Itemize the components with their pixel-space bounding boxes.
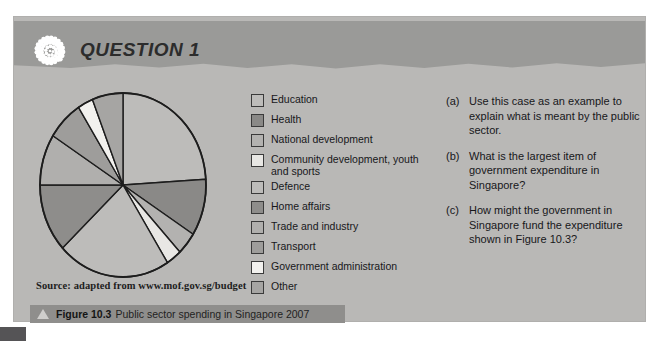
pie-chart-svg	[32, 89, 247, 289]
legend-item: Defence	[251, 180, 436, 197]
legend-swatch	[251, 94, 264, 107]
legend-swatch	[251, 114, 264, 127]
legend-swatch	[251, 281, 264, 294]
legend-swatch	[251, 201, 264, 214]
scanned-page: QUESTION 1 Source: adapted from www.mof.…	[0, 0, 661, 341]
question-item: (a)Use this case as an example to explai…	[446, 94, 641, 138]
legend-item-label: Community development, youth and sports	[271, 153, 436, 177]
legend-swatch	[251, 154, 264, 167]
spiral-dots-icon	[28, 29, 72, 73]
question-marker: (a)	[446, 94, 469, 138]
figure-caption-bar: Figure 10.3 Public sector spending in Si…	[30, 305, 345, 323]
figure-caption-text: Public sector spending in Singapore 2007	[115, 308, 309, 320]
legend-swatch	[251, 134, 264, 147]
legend-item-label: Transport	[271, 240, 316, 253]
legend-item: Community development, youth and sports	[251, 153, 436, 177]
questions-list: (a)Use this case as an example to explai…	[446, 94, 641, 258]
pie-chart	[32, 89, 247, 289]
chart-legend: EducationHealthNational developmentCommu…	[251, 93, 436, 300]
legend-item-label: Other	[271, 280, 297, 293]
legend-item-label: Trade and industry	[271, 220, 358, 233]
legend-item-label: Defence	[271, 180, 310, 193]
legend-item: Other	[251, 280, 436, 297]
legend-item: Education	[251, 93, 436, 110]
triangle-up-icon	[37, 309, 49, 319]
question-item: (c)How might the government in Singapore…	[446, 203, 641, 247]
question-text: Use this case as an example to explain w…	[469, 94, 641, 138]
figure-number: Figure 10.3	[56, 308, 111, 320]
question-item: (b)What is the largest item of governmen…	[446, 149, 641, 193]
question-panel: QUESTION 1 Source: adapted from www.mof.…	[14, 17, 645, 321]
pie-slice	[123, 93, 206, 185]
question-marker: (b)	[446, 149, 469, 193]
legend-swatch	[251, 221, 264, 234]
question-text: What is the largest item of government e…	[469, 149, 641, 193]
question-marker: (c)	[446, 203, 469, 247]
legend-item: Government administration	[251, 260, 436, 277]
legend-item: Home affairs	[251, 200, 436, 217]
legend-item: National development	[251, 133, 436, 150]
page-title: QUESTION 1	[80, 39, 200, 61]
legend-item: Health	[251, 113, 436, 130]
scan-artifact-mark	[0, 327, 26, 341]
legend-item-label: Education	[271, 93, 318, 106]
legend-swatch	[251, 181, 264, 194]
legend-item: Trade and industry	[251, 220, 436, 237]
legend-item: Transport	[251, 240, 436, 257]
legend-item-label: Government administration	[271, 260, 397, 273]
question-text: How might the government in Singapore fu…	[469, 203, 641, 247]
legend-item-label: National development	[271, 133, 373, 146]
legend-item-label: Health	[271, 113, 301, 126]
chart-source-note: Source: adapted from www.mof.gov.sg/budg…	[36, 280, 246, 291]
legend-swatch	[251, 261, 264, 274]
legend-item-label: Home affairs	[271, 200, 330, 213]
legend-swatch	[251, 241, 264, 254]
